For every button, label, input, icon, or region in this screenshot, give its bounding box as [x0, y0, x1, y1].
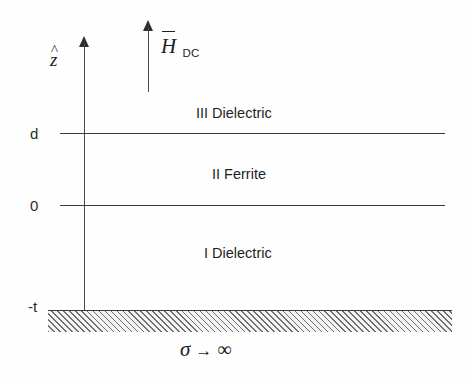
infinity-symbol: ∞ — [217, 338, 231, 360]
z-hat-axis-symbol: ^z — [50, 50, 57, 69]
hdc-overbar — [162, 31, 175, 32]
sigma-symbol: σ — [180, 337, 190, 361]
z-hat-accent: ^ — [51, 43, 58, 58]
interface-line-d — [60, 133, 445, 134]
region-label-iii-dielectric: III Dielectric — [196, 106, 272, 121]
axis-tick-label-minus-t: -t — [28, 299, 37, 314]
hdc-arrow-shaft — [148, 28, 149, 92]
axis-tick-label-d: d — [30, 126, 38, 141]
z-axis-shaft — [84, 44, 85, 310]
perfect-conductor-hatched-block — [48, 310, 452, 332]
hdc-field-label: H DC — [161, 36, 200, 60]
hdc-subscript: DC — [182, 47, 199, 59]
layered-structure-figure: ^z H DC III Dielectric d II Ferrite 0 I … — [0, 0, 470, 381]
hdc-letter: H — [161, 34, 176, 58]
region-label-i-dielectric: I Dielectric — [204, 246, 272, 261]
hdc-symbol-H: H — [161, 34, 181, 58]
arrow-right-icon: → — [195, 341, 212, 360]
axis-tick-label-zero: 0 — [30, 198, 38, 213]
region-label-ii-ferrite: II Ferrite — [212, 167, 266, 182]
conductivity-label: σ→∞ — [180, 339, 232, 360]
interface-line-zero — [60, 205, 445, 206]
